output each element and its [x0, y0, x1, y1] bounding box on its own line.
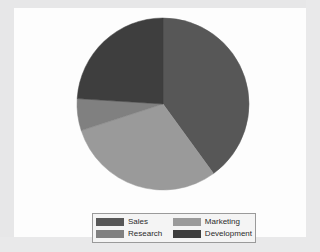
- page-margin-top: [0, 0, 320, 8]
- page-margin-right: [306, 0, 320, 252]
- pie-slice-group: [77, 18, 249, 190]
- legend-swatch-development: [173, 230, 201, 238]
- legend-label-development: Development: [205, 230, 252, 238]
- legend-label-marketing: Marketing: [205, 218, 240, 226]
- legend-label-research: Research: [128, 230, 162, 238]
- legend-label-sales: Sales: [128, 218, 148, 226]
- legend-item-development[interactable]: Development: [173, 228, 252, 240]
- legend-swatch-research: [96, 230, 124, 238]
- chart-legend: Sales Marketing Research Development: [92, 213, 256, 243]
- chart-panel: Sales Marketing Research Development: [14, 8, 306, 237]
- legend-item-sales[interactable]: Sales: [96, 216, 173, 228]
- pie-chart: [14, 8, 306, 237]
- legend-item-marketing[interactable]: Marketing: [173, 216, 252, 228]
- page-margin-left: [0, 0, 14, 252]
- legend-swatch-sales: [96, 218, 124, 226]
- legend-item-research[interactable]: Research: [96, 228, 173, 240]
- pie-slice-development[interactable]: [77, 18, 163, 104]
- chart-page: Sales Marketing Research Development: [0, 0, 320, 252]
- legend-swatch-marketing: [173, 218, 201, 226]
